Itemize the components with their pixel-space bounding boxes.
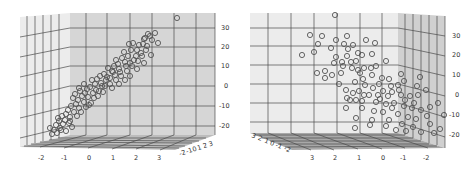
svg-text:3: 3 — [310, 154, 314, 162]
svg-text:20: 20 — [221, 43, 229, 51]
svg-text:3: 3 — [208, 139, 214, 148]
svg-text:-2: -2 — [423, 154, 429, 162]
svg-text:1: 1 — [357, 154, 361, 162]
scatter-3d-figure: 30 20 10 0 -10 -20 -2 -1 0 1 2 3 -2 -1 0… — [0, 0, 475, 170]
svg-text:-2: -2 — [38, 154, 44, 162]
svg-text:30: 30 — [452, 32, 460, 40]
svg-text:0: 0 — [381, 154, 385, 162]
svg-text:-2: -2 — [283, 145, 292, 155]
left-x-axis: -2 -1 0 1 2 3 — [38, 154, 161, 162]
svg-text:3: 3 — [157, 154, 161, 162]
left-3d-axes: 30 20 10 0 -10 -20 -2 -1 0 1 2 3 -2 -1 0… — [20, 13, 230, 162]
svg-text:10: 10 — [452, 71, 460, 79]
svg-text:2: 2 — [333, 154, 337, 162]
svg-text:-20: -20 — [219, 122, 230, 130]
svg-text:-20: -20 — [449, 131, 460, 139]
right-3d-axes: 30 20 10 0 -10 -20 3 2 1 0 -1 -2 3 2 1 0… — [250, 12, 460, 162]
svg-text:0: 0 — [224, 82, 228, 90]
svg-text:-1: -1 — [274, 141, 283, 151]
svg-text:10: 10 — [221, 62, 229, 70]
svg-text:-1: -1 — [400, 154, 406, 162]
left-back-pane — [70, 13, 215, 135]
left-z-axis: 30 20 10 0 -10 -20 — [215, 13, 230, 135]
svg-text:30: 30 — [221, 24, 229, 32]
svg-text:0: 0 — [87, 154, 91, 162]
svg-text:-1: -1 — [61, 154, 67, 162]
svg-text:0: 0 — [455, 91, 459, 99]
svg-text:-10: -10 — [219, 102, 230, 110]
right-x-axis: 3 2 1 0 -1 -2 — [310, 154, 429, 162]
svg-text:-10: -10 — [449, 111, 460, 119]
right-z-axis: 30 20 10 0 -10 -20 — [445, 16, 460, 148]
svg-text:20: 20 — [452, 51, 460, 59]
svg-text:2: 2 — [134, 154, 138, 162]
svg-text:1: 1 — [111, 154, 115, 162]
